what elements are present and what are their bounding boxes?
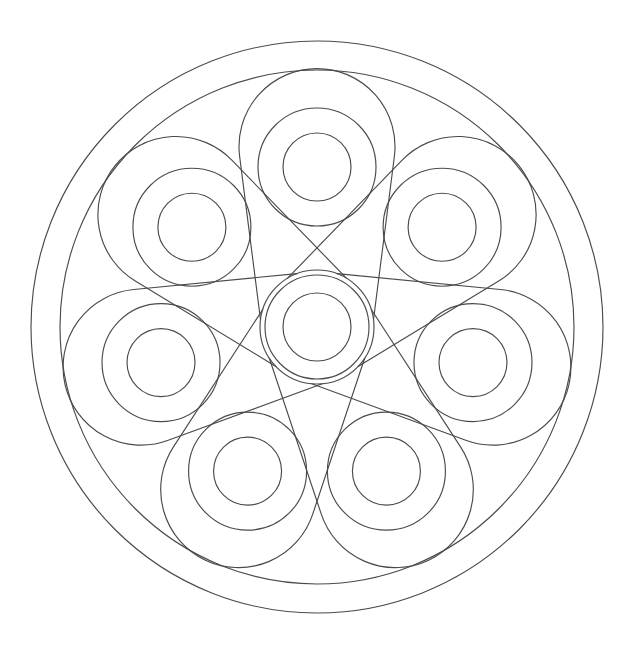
hub-middle-circle: [265, 275, 369, 379]
hub-outer-circle: [260, 270, 374, 384]
boss-inner-circle: [439, 329, 507, 397]
rim-outer-circle: [31, 41, 603, 613]
boss-inner-circle: [127, 329, 195, 397]
boss-inner-circle: [158, 193, 226, 261]
bosses-group: [102, 108, 532, 530]
boss-inner-circle: [352, 437, 420, 505]
boss-inner-circle: [214, 437, 282, 505]
boss-middle-circle: [383, 168, 501, 286]
boss-inner-circle: [408, 193, 476, 261]
boss-middle-circle: [189, 412, 307, 530]
boss-middle-circle: [133, 168, 251, 286]
rim-group: [31, 41, 603, 613]
boss-middle-circle: [258, 108, 376, 226]
spoke-outline: [288, 136, 536, 366]
spoke-outline: [239, 69, 395, 320]
hub-group: [260, 270, 374, 384]
flywheel-figure: Flywheel Hub Line Drawing Technical line…: [0, 0, 624, 666]
drawing-canvas: Flywheel Hub Line Drawing Technical line…: [0, 0, 624, 666]
boss-inner-circle: [283, 133, 351, 201]
boss-middle-circle: [327, 412, 445, 530]
spokes-group: [63, 69, 571, 568]
spoke-outline: [98, 136, 346, 366]
hub-inner-circle: [283, 293, 351, 361]
